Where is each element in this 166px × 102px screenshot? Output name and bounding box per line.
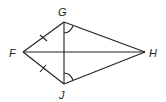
angle-mark-j bbox=[64, 73, 73, 80]
segment-fg bbox=[23, 22, 64, 52]
kite-diagram: G F H J bbox=[0, 0, 166, 102]
label-j: J bbox=[58, 89, 65, 101]
label-f: F bbox=[9, 47, 17, 59]
angle-mark-g bbox=[64, 26, 73, 33]
tick-mark-fg bbox=[40, 35, 47, 41]
label-g: G bbox=[58, 6, 67, 18]
segment-hj bbox=[64, 52, 145, 84]
label-h: H bbox=[149, 47, 157, 59]
segment-gh bbox=[64, 22, 145, 52]
